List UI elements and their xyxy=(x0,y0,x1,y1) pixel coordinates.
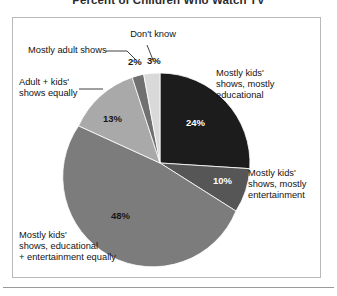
slice-value-dont-know: 3% xyxy=(147,55,161,66)
slice-value-mostly-educational: 24% xyxy=(186,117,205,128)
category-label-mostly-entertainment-line3: entertainment xyxy=(248,190,337,201)
category-label-educational-and-entertainment-line2: shows, educational xyxy=(19,241,144,252)
slice-value-mostly-entertainment: 10% xyxy=(213,175,232,186)
category-label-mostly-entertainment-line2: shows, mostly xyxy=(248,179,337,190)
category-label-educational-and-entertainment: Mostly kids' shows, educational + entert… xyxy=(19,230,144,264)
category-label-mostly-educational-line1: Mostly kids' xyxy=(216,68,328,79)
category-label-mostly-educational-line2: shows, mostly xyxy=(216,79,328,90)
category-label-mostly-educational-line3: educational xyxy=(216,90,328,101)
chart-title: Percent of Children Who Watch TV xyxy=(0,0,337,6)
category-label-mostly-educational: Mostly kids' shows, mostly educational xyxy=(216,68,328,102)
category-label-mostly-entertainment-line1: Mostly kids' xyxy=(248,168,337,179)
category-label-mostly-adult: Mostly adult shows xyxy=(28,45,108,56)
category-label-adult-plus-kids: Adult + kids' shows equally xyxy=(19,77,109,99)
category-label-educational-and-entertainment-line1: Mostly kids' xyxy=(19,230,144,241)
category-label-educational-and-entertainment-line3: + entertainment equally xyxy=(19,252,144,263)
bottom-divider xyxy=(3,287,334,288)
category-label-adult-plus-kids-line1: Adult + kids' xyxy=(19,77,109,88)
slice-value-educational-and-entertainment: 48% xyxy=(111,210,130,221)
category-label-dont-know: Don't know xyxy=(118,29,188,40)
category-label-adult-plus-kids-line2: shows equally xyxy=(19,88,109,99)
category-label-mostly-entertainment: Mostly kids' shows, mostly entertainment xyxy=(248,168,337,202)
slice-value-adult-plus-kids: 13% xyxy=(103,113,122,124)
slice-value-mostly-adult: 2% xyxy=(128,56,142,67)
